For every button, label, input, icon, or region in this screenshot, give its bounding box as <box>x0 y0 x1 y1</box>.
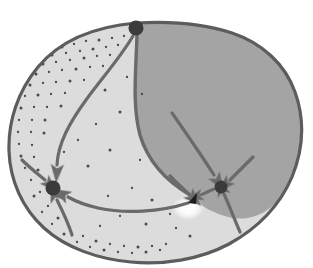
stipple-dot <box>119 215 121 217</box>
stipple-dot <box>107 195 109 197</box>
stipple-dot <box>33 106 35 108</box>
stipple-dot <box>44 119 47 122</box>
stipple-dot <box>98 39 101 42</box>
stipple-dot <box>109 149 112 152</box>
stipple-dot <box>63 151 65 153</box>
stipple-dot <box>37 94 40 97</box>
stipple-dot <box>92 48 95 51</box>
stipple-dot <box>39 191 41 193</box>
stipple-dot <box>24 95 26 97</box>
stipple-dot <box>75 68 78 71</box>
stipple-dot <box>109 54 111 56</box>
stipple-dot <box>41 211 43 213</box>
stipple-dot <box>61 69 63 71</box>
stipple-dot <box>131 187 133 189</box>
stipple-dot <box>79 50 81 52</box>
stipple-dot <box>83 57 86 60</box>
stipple-dot <box>18 143 20 145</box>
stipple-dot <box>117 44 119 46</box>
stipple-dot <box>55 81 57 83</box>
stipple-dot <box>189 235 192 238</box>
stipple-dot <box>119 111 122 114</box>
stipple-dot <box>73 43 75 45</box>
stipple-dot <box>69 59 71 61</box>
stipple-dot <box>31 144 33 146</box>
figure-root: Phase portrait on a closed surface regio… <box>0 0 313 268</box>
stipple-dot <box>51 223 53 225</box>
stipple-dot <box>139 159 141 161</box>
stipple-dot <box>87 165 90 168</box>
stipple-dot <box>169 213 171 215</box>
stipple-dot <box>95 123 97 125</box>
node-right-sink <box>215 181 228 194</box>
stipple-dot <box>111 37 113 39</box>
stipple-dot <box>123 245 125 247</box>
stipple-dot <box>50 93 52 95</box>
stipple-dot <box>151 199 154 202</box>
stipple-dot <box>57 217 60 220</box>
stipple-dot <box>175 227 177 229</box>
stipple-dot <box>105 46 107 48</box>
stipple-dot <box>69 80 72 83</box>
stipple-dot <box>30 179 32 181</box>
stipple-dot <box>89 66 91 68</box>
stipple-dot <box>33 156 35 158</box>
stipple-dot <box>123 35 125 37</box>
stipple-dot <box>65 52 67 54</box>
stipple-dot <box>83 79 85 81</box>
stipple-dot <box>37 169 40 172</box>
stipple-dot <box>17 131 19 133</box>
stipple-dot <box>137 246 140 249</box>
stipple-dot <box>96 55 98 57</box>
stipple-dot <box>165 243 167 245</box>
stipple-dot <box>151 245 153 247</box>
stipple-dot <box>60 105 63 108</box>
stipple-dot <box>48 71 50 73</box>
stipple-dot <box>20 155 23 158</box>
stipple-dot <box>145 251 148 254</box>
stipple-dot <box>47 205 49 207</box>
stipple-dot <box>82 235 84 237</box>
stipple-dot <box>102 65 104 67</box>
stipple-dot <box>103 249 106 252</box>
stipple-dot <box>77 139 79 141</box>
stipple-dot <box>24 167 26 169</box>
stipple-dot <box>64 92 66 94</box>
stipple-dot <box>43 132 46 135</box>
stipple-dot <box>109 243 111 245</box>
stipple-dot <box>33 195 36 198</box>
stipple-dot <box>31 119 33 121</box>
stipple-dot <box>29 84 32 87</box>
stipple-dot <box>18 119 20 121</box>
region-fills <box>9 22 302 262</box>
node-left-sink <box>46 181 61 196</box>
stipple-dot <box>117 251 119 253</box>
stipple-dot <box>76 241 78 243</box>
stipple-dot <box>30 131 32 133</box>
stipple-dot <box>104 89 107 92</box>
stipple-dot <box>95 240 98 243</box>
stipple-dot <box>55 61 57 63</box>
node-top <box>129 21 144 36</box>
stipple-dot <box>20 107 23 110</box>
stipple-dot <box>89 246 91 248</box>
stipple-dot <box>99 225 101 227</box>
stipple-dot <box>46 106 48 108</box>
stipple-dot <box>85 40 87 42</box>
stipple-dot <box>141 93 143 95</box>
stipple-dot <box>159 249 161 251</box>
phase-portrait-svg <box>0 0 313 268</box>
stipple-dot <box>42 82 44 84</box>
stipple-dot <box>63 233 66 236</box>
stipple-dot <box>126 76 128 78</box>
stipple-dot <box>131 252 133 254</box>
stipple-dot <box>145 223 148 226</box>
